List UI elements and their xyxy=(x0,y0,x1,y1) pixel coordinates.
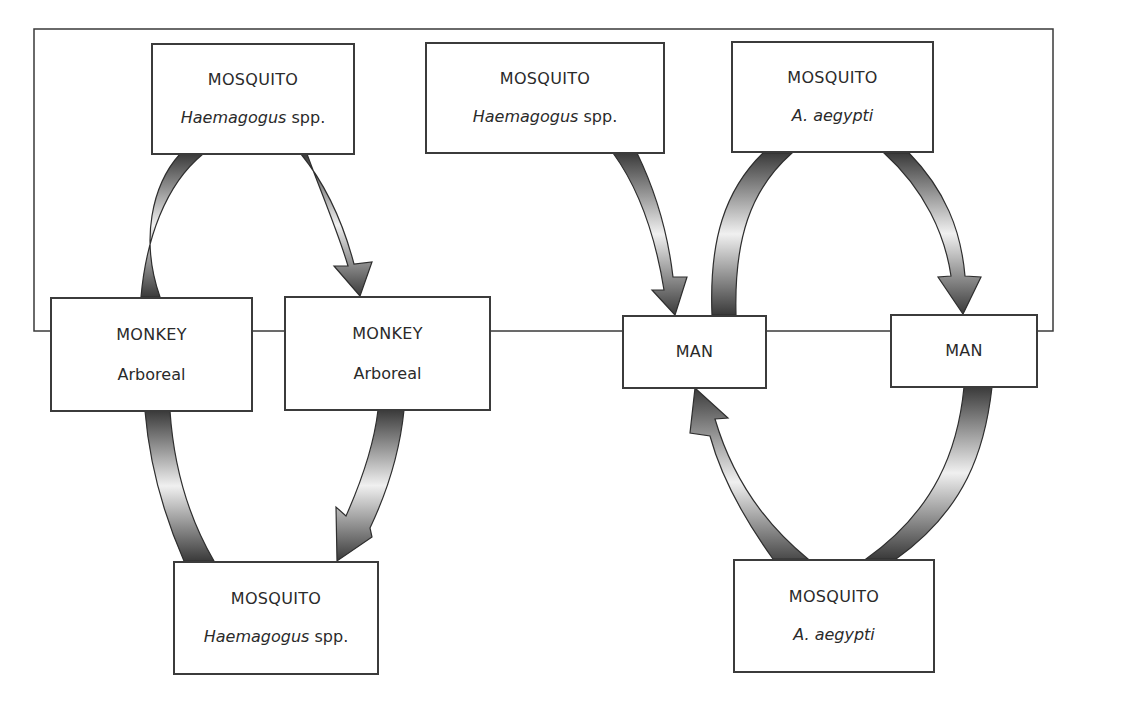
node-man-left: MAN xyxy=(622,315,767,389)
node-monkey-left: MONKEY Arboreal xyxy=(50,297,253,412)
species-genus: Haemagogus xyxy=(204,627,310,646)
node-title: MONKEY xyxy=(116,327,187,343)
node-mosquito-aegypti-bottom: MOSQUITO A. aegypti xyxy=(733,559,935,673)
node-mosquito-aegypti-top: MOSQUITO A. aegypti xyxy=(731,41,934,153)
arrow-monkey-left-to-mosquito-bottom xyxy=(145,411,214,561)
arrow-man-left-to-mosquito-top xyxy=(712,153,792,315)
node-monkey-right: MONKEY Arboreal xyxy=(284,296,491,411)
node-title: MOSQUITO xyxy=(208,72,298,88)
node-species: A. aegypti xyxy=(793,627,875,643)
node-title: MOSQUITO xyxy=(789,589,879,605)
node-mosquito-haemagogus-top: MOSQUITO Haemagogus spp. xyxy=(151,43,355,155)
node-title: MONKEY xyxy=(352,326,423,342)
arrow-mosquito-top-to-man-right xyxy=(884,153,981,314)
arrow-monkey-right-to-mosquito-bottom xyxy=(336,410,404,561)
species-suffix: spp. xyxy=(286,108,325,127)
species-genus: Haemagogus xyxy=(181,108,287,127)
species-suffix: spp. xyxy=(578,107,617,126)
arrow-monkey-left-to-mosquito-top xyxy=(141,154,203,297)
node-title: MOSQUITO xyxy=(787,70,877,86)
species-genus: Haemagogus xyxy=(473,107,579,126)
node-habitat: Arboreal xyxy=(354,366,422,382)
node-habitat: Arboreal xyxy=(118,367,186,383)
arrow-mosquito-top-to-monkey-right xyxy=(301,154,372,296)
node-mosquito-haemagogus-bottom: MOSQUITO Haemagogus spp. xyxy=(173,561,379,675)
arrow-man-right-to-mosquito-bottom xyxy=(866,387,992,559)
node-man-right: MAN xyxy=(890,314,1038,388)
node-mosquito-haemagogus-bridge: MOSQUITO Haemagogus spp. xyxy=(425,42,665,154)
node-title: MAN xyxy=(945,343,983,359)
arrow-mosquito-bridge-to-man-left xyxy=(613,153,687,315)
node-species: A. aegypti xyxy=(792,108,874,124)
node-species: Haemagogus spp. xyxy=(181,110,325,126)
node-species: Haemagogus spp. xyxy=(473,109,617,125)
arrow-mosquito-bottom-to-man-left xyxy=(690,388,808,559)
species-suffix: spp. xyxy=(309,627,348,646)
node-title: MAN xyxy=(676,344,714,360)
node-title: MOSQUITO xyxy=(231,591,321,607)
node-species: Haemagogus spp. xyxy=(204,629,348,645)
node-title: MOSQUITO xyxy=(500,71,590,87)
